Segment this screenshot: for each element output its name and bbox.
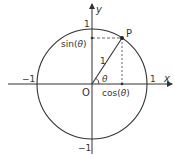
cos-tick	[121, 83, 124, 86]
y-axis-label: y	[95, 4, 103, 15]
sin-label: sin(θ)	[61, 39, 86, 49]
x-neg-tick-label: −1	[22, 74, 35, 84]
angle-label: θ	[102, 74, 108, 84]
x-axis-label: x	[163, 73, 170, 84]
y-pos-tick-label: 1	[84, 19, 90, 29]
cos-label: cos(θ)	[102, 88, 130, 98]
sin-tick	[91, 37, 94, 40]
origin-label: O	[82, 87, 90, 98]
y-neg-tick-label: −1	[78, 143, 91, 153]
point-label: P	[126, 28, 132, 39]
point-p	[120, 36, 124, 40]
x-pos-tick-label: 1	[150, 74, 156, 84]
unit-circle-diagram: y x 1 −1 −1 1 O P 1 θ sin(θ) cos(θ)	[0, 0, 175, 157]
angle-arc	[96, 78, 99, 84]
radius-label: 1	[100, 56, 106, 66]
